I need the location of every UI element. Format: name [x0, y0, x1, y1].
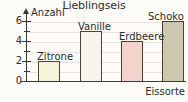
y-tick-2	[22, 61, 31, 62]
y-axis-arrow-icon	[23, 8, 29, 14]
bar-zitrone	[38, 61, 60, 82]
y-tick-6	[22, 21, 31, 22]
y-tick-label-2: 2	[8, 56, 22, 66]
y-tick-label-4: 4	[8, 36, 22, 46]
bar-schoko	[162, 21, 184, 82]
y-tick-0	[22, 81, 31, 82]
y-tick-minor-5	[24, 31, 30, 32]
y-tick-minor-3	[24, 51, 30, 52]
x-axis-label: Eissorte	[145, 86, 185, 97]
bar-label-zitrone: Zitrone	[37, 52, 73, 62]
bar-label-vanille: Vanille	[78, 22, 111, 32]
y-tick-minor-1	[24, 71, 30, 72]
bar-vanille	[80, 31, 102, 82]
gridline-4	[26, 42, 184, 43]
bar-label-schoko: Schoko	[148, 12, 184, 22]
bar-chart: Lieblingseis 0 2 4 6 Anzahl Eissorte Zit…	[0, 0, 188, 102]
y-tick-4	[22, 41, 31, 42]
y-tick-label-6: 6	[8, 16, 22, 26]
bar-label-erdbeere: Erdbeere	[119, 32, 164, 42]
y-axis-label: Anzahl	[31, 7, 65, 18]
bar-erdbeere	[121, 41, 143, 82]
y-tick-label-0: 0	[8, 76, 22, 86]
x-axis-line	[20, 81, 186, 82]
